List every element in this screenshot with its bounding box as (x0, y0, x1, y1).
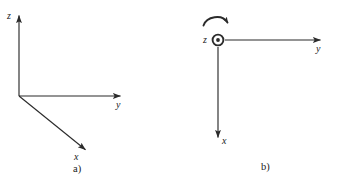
panel-a-caption: a) (73, 163, 81, 174)
panel-b-axes-drawing (170, 0, 340, 184)
panel-a-x-axis-line (19, 96, 86, 150)
panel-a-z-axis-label: z (7, 11, 11, 21)
panel-a-x-axis-label: x (74, 152, 78, 162)
figure-root: z y x a) (0, 0, 340, 184)
panel-a-y-axis-label: y (116, 100, 120, 110)
panel-b-z-out-of-page-circle-dot-icon (213, 35, 224, 46)
panel-b-z-axis-label: z (203, 35, 207, 45)
panel-b-caption: b) (261, 161, 270, 172)
panel-b: z y x b) (170, 0, 340, 184)
panel-a: z y x a) (0, 0, 170, 184)
panel-b-rotation-arrow-icon (204, 17, 228, 25)
panel-b-y-axis-label: y (316, 44, 320, 54)
panel-a-axes-drawing (0, 0, 170, 184)
panel-b-x-axis-label: x (222, 136, 226, 146)
